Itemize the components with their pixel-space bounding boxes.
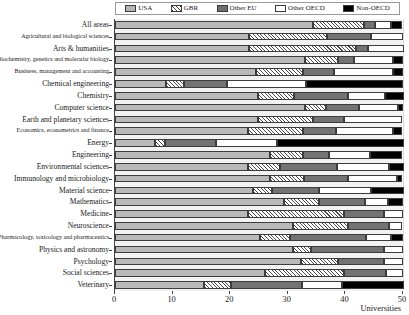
- bar-segment-eu[interactable]: [304, 175, 348, 183]
- bar-segment-oecd[interactable]: [334, 68, 393, 76]
- bar-segment-eu[interactable]: [338, 56, 354, 64]
- bar-segment-usa[interactable]: [115, 68, 256, 76]
- bar-segment-eu[interactable]: [356, 45, 368, 53]
- stacked-bar[interactable]: [115, 92, 404, 100]
- bar-segment-eu[interactable]: [319, 198, 365, 206]
- bar-segment-usa[interactable]: [115, 246, 293, 254]
- bar-segment-non[interactable]: [397, 175, 403, 183]
- bar-segment-oecd[interactable]: [386, 269, 403, 277]
- bar-segment-gbr[interactable]: [260, 234, 290, 242]
- bar-segment-oecd[interactable]: [365, 198, 388, 206]
- bar-segment-oecd[interactable]: [359, 104, 398, 112]
- bar-segment-non[interactable]: [393, 127, 403, 135]
- stacked-bar[interactable]: [115, 281, 404, 289]
- bar-segment-usa[interactable]: [115, 210, 248, 218]
- bar-segment-non[interactable]: [393, 56, 403, 64]
- bar-segment-non[interactable]: [342, 281, 403, 289]
- bar-segment-oecd[interactable]: [384, 210, 403, 218]
- bar-segment-eu[interactable]: [338, 258, 384, 266]
- stacked-bar[interactable]: [115, 210, 403, 218]
- bar-segment-oecd[interactable]: [389, 222, 403, 230]
- bar-segment-oecd[interactable]: [348, 175, 397, 183]
- bar-segment-oecd[interactable]: [384, 258, 403, 266]
- bar-segment-oecd[interactable]: [366, 234, 391, 242]
- bar-segment-eu[interactable]: [364, 21, 375, 29]
- bar-segment-oecd[interactable]: [348, 92, 384, 100]
- bar-segment-usa[interactable]: [115, 151, 270, 159]
- bar-segment-eu[interactable]: [231, 281, 301, 289]
- bar-segment-eu[interactable]: [290, 234, 366, 242]
- stacked-bar[interactable]: [115, 127, 402, 135]
- bar-segment-usa[interactable]: [115, 198, 284, 206]
- bar-segment-non[interactable]: [389, 163, 404, 171]
- bar-segment-eu[interactable]: [326, 104, 359, 112]
- bar-segment-usa[interactable]: [115, 222, 293, 230]
- bar-segment-gbr[interactable]: [256, 68, 303, 76]
- bar-segment-gbr[interactable]: [313, 21, 364, 29]
- stacked-bar[interactable]: [115, 246, 403, 254]
- stacked-bar[interactable]: [115, 139, 404, 147]
- bar-segment-usa[interactable]: [115, 33, 249, 41]
- bar-segment-gbr[interactable]: [253, 187, 272, 195]
- bar-segment-usa[interactable]: [115, 104, 305, 112]
- bar-segment-oecd[interactable]: [319, 187, 371, 195]
- bar-segment-eu[interactable]: [311, 246, 384, 254]
- bar-segment-non[interactable]: [385, 92, 404, 100]
- stacked-bar[interactable]: [115, 258, 403, 266]
- stacked-bar[interactable]: [115, 104, 403, 112]
- bar-segment-gbr[interactable]: [270, 175, 304, 183]
- bar-segment-oecd[interactable]: [329, 151, 370, 159]
- bar-segment-non[interactable]: [370, 151, 403, 159]
- bar-segment-usa[interactable]: [115, 258, 301, 266]
- bar-segment-gbr[interactable]: [293, 246, 311, 254]
- bar-segment-eu[interactable]: [294, 92, 348, 100]
- bar-segment-usa[interactable]: [115, 281, 204, 289]
- bar-segment-gbr[interactable]: [258, 92, 294, 100]
- bar-segment-oecd[interactable]: [336, 127, 393, 135]
- bar-segment-eu[interactable]: [313, 116, 344, 124]
- stacked-bar[interactable]: [115, 151, 402, 159]
- stacked-bar[interactable]: [115, 269, 403, 277]
- stacked-bar[interactable]: [115, 80, 403, 88]
- bar-segment-usa[interactable]: [115, 175, 270, 183]
- bar-segment-gbr[interactable]: [305, 104, 326, 112]
- bar-segment-usa[interactable]: [115, 45, 249, 53]
- bar-segment-non[interactable]: [306, 80, 403, 88]
- stacked-bar[interactable]: [115, 187, 404, 195]
- stacked-bar[interactable]: [115, 21, 402, 29]
- bar-segment-eu[interactable]: [165, 139, 217, 147]
- bar-segment-non[interactable]: [391, 234, 403, 242]
- bar-segment-non[interactable]: [393, 68, 403, 76]
- bar-segment-gbr[interactable]: [249, 33, 327, 41]
- bar-segment-usa[interactable]: [115, 21, 313, 29]
- bar-segment-gbr[interactable]: [258, 116, 313, 124]
- stacked-bar[interactable]: [115, 33, 403, 41]
- stacked-bar[interactable]: [115, 175, 402, 183]
- bar-segment-usa[interactable]: [115, 163, 248, 171]
- bar-segment-eu[interactable]: [303, 151, 329, 159]
- bar-segment-usa[interactable]: [115, 139, 155, 147]
- bar-segment-non[interactable]: [388, 198, 403, 206]
- bar-segment-gbr[interactable]: [155, 139, 164, 147]
- bar-segment-gbr[interactable]: [204, 281, 231, 289]
- bar-segment-gbr[interactable]: [293, 222, 348, 230]
- bar-segment-oecd[interactable]: [371, 33, 403, 41]
- bar-segment-eu[interactable]: [344, 269, 386, 277]
- bar-segment-eu[interactable]: [327, 33, 371, 41]
- bar-segment-usa[interactable]: [115, 92, 258, 100]
- stacked-bar[interactable]: [115, 116, 402, 124]
- stacked-bar[interactable]: [115, 198, 403, 206]
- bar-segment-gbr[interactable]: [284, 198, 319, 206]
- bar-segment-usa[interactable]: [115, 80, 166, 88]
- stacked-bar[interactable]: [115, 234, 403, 242]
- bar-segment-oecd[interactable]: [337, 163, 388, 171]
- bar-segment-non[interactable]: [391, 21, 402, 29]
- bar-segment-gbr[interactable]: [270, 151, 303, 159]
- bar-segment-oecd[interactable]: [375, 21, 391, 29]
- stacked-bar[interactable]: [115, 68, 403, 76]
- bar-segment-usa[interactable]: [115, 187, 253, 195]
- stacked-bar[interactable]: [115, 222, 402, 230]
- bar-segment-oecd[interactable]: [302, 281, 343, 289]
- bar-segment-oecd[interactable]: [344, 116, 403, 124]
- bar-segment-gbr[interactable]: [305, 56, 338, 64]
